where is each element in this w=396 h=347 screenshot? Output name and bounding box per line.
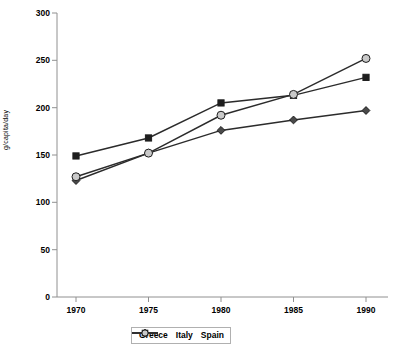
x-tick-label: 1975 <box>139 305 158 315</box>
axes <box>52 13 388 302</box>
series-spain <box>72 54 370 180</box>
data-series-layer <box>72 54 370 184</box>
data-point[interactable] <box>290 90 298 98</box>
legend-marker-circle-icon <box>132 328 158 338</box>
x-tick-label: 1990 <box>357 305 376 315</box>
data-point[interactable] <box>363 74 369 80</box>
data-point[interactable] <box>290 116 298 124</box>
data-point[interactable] <box>145 135 151 141</box>
data-point[interactable] <box>72 173 80 181</box>
data-point[interactable] <box>145 149 153 157</box>
line-chart: g/capita/day 300 250 200 150 100 50 0 19 <box>0 0 396 347</box>
plot-canvas <box>0 0 396 347</box>
data-point[interactable] <box>218 100 224 106</box>
data-point[interactable] <box>217 126 225 134</box>
data-point[interactable] <box>217 111 225 119</box>
x-tick-label: 1980 <box>212 305 231 315</box>
legend-item-spain[interactable]: Spain <box>200 330 224 340</box>
x-tick-label: 1985 <box>284 305 303 315</box>
data-point[interactable] <box>362 107 370 115</box>
legend-item-italy[interactable]: Italy <box>175 330 193 340</box>
data-point[interactable] <box>73 153 79 159</box>
data-point[interactable] <box>362 54 370 62</box>
chart-legend: Greece Italy Spain <box>131 327 231 344</box>
legend-label-italy: Italy <box>175 330 193 340</box>
x-tick-label: 1970 <box>67 305 86 315</box>
legend-label-spain: Spain <box>200 330 224 340</box>
